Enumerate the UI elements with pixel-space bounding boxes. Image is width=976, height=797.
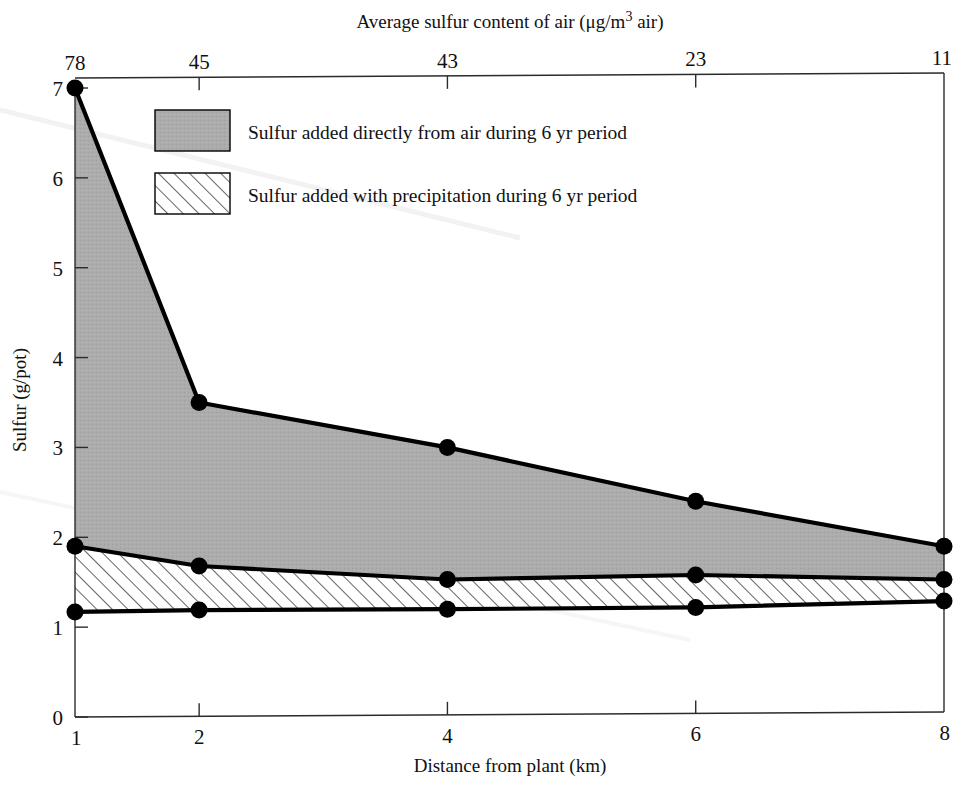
legend-label-precipitation: Sulfur added with precipitation during 6… bbox=[248, 185, 638, 206]
data-point-s2-x8 bbox=[936, 593, 953, 610]
y-tick-label-7: 7 bbox=[53, 77, 64, 101]
top-axis-title: Average sulfur content of air (μg/m3 air… bbox=[356, 9, 663, 33]
data-point-s0-x6 bbox=[687, 493, 704, 510]
data-point-s2-x1 bbox=[67, 603, 84, 620]
y-tick-label-3: 3 bbox=[53, 436, 64, 460]
x-tick-label-8: 8 bbox=[940, 721, 951, 745]
x-tick-label-2: 2 bbox=[194, 725, 205, 749]
area-bands bbox=[75, 88, 944, 612]
y-tick-label-0: 0 bbox=[53, 706, 64, 730]
x-axis-ticks: 12468 bbox=[71, 700, 950, 750]
y-tick-label-1: 1 bbox=[53, 616, 64, 640]
top-tick-label-78: 78 bbox=[65, 51, 86, 75]
x-tick-label-1: 1 bbox=[71, 726, 82, 750]
x-tick-label-6: 6 bbox=[690, 722, 701, 746]
legend-swatch-hatched bbox=[155, 173, 230, 214]
sulfur-deposition-chart: 01234567 12468 7845432311 Average sulfur… bbox=[0, 0, 976, 797]
legend-swatch-solid-gray bbox=[155, 110, 230, 151]
chart-figure: 01234567 12468 7845432311 Average sulfur… bbox=[0, 0, 976, 797]
y-tick-label-6: 6 bbox=[53, 167, 64, 191]
data-point-s0-x4 bbox=[439, 439, 456, 456]
data-point-s0-x1 bbox=[67, 80, 84, 97]
data-point-s2-x4 bbox=[439, 601, 456, 618]
legend-label-air: Sulfur added directly from air during 6 … bbox=[248, 122, 627, 143]
data-point-s2-x6 bbox=[687, 599, 704, 616]
y-tick-label-4: 4 bbox=[53, 347, 64, 371]
top-tick-label-43: 43 bbox=[437, 49, 458, 73]
axes bbox=[75, 73, 944, 717]
data-point-s0-x2 bbox=[191, 394, 208, 411]
y-tick-label-2: 2 bbox=[53, 526, 64, 550]
data-point-s1-x6 bbox=[687, 567, 704, 584]
top-tick-label-23: 23 bbox=[685, 47, 706, 71]
data-point-s1-x4 bbox=[439, 571, 456, 588]
top-tick-label-45: 45 bbox=[189, 50, 210, 74]
top-axis-ticks: 7845432311 bbox=[65, 46, 953, 90]
x-tick-label-4: 4 bbox=[442, 724, 453, 748]
y-axis-title: Sulfur (g/pot) bbox=[9, 348, 31, 452]
x-axis-line bbox=[75, 712, 944, 717]
data-point-s1-x8 bbox=[936, 571, 953, 588]
data-point-s0-x8 bbox=[936, 538, 953, 555]
x-axis-title: Distance from plant (km) bbox=[414, 755, 607, 777]
data-point-s1-x2 bbox=[191, 558, 208, 575]
data-point-s2-x2 bbox=[191, 602, 208, 619]
y-tick-label-5: 5 bbox=[53, 257, 64, 281]
top-tick-label-11: 11 bbox=[932, 46, 952, 70]
chart-legend: Sulfur added directly from air during 6 … bbox=[155, 110, 638, 214]
data-point-s1-x1 bbox=[67, 538, 84, 555]
